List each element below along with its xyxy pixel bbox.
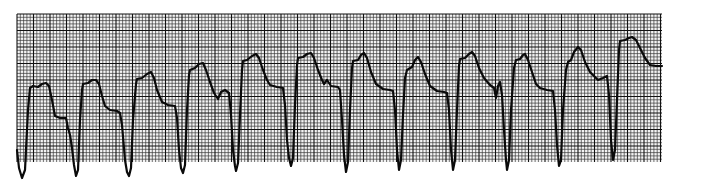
ecg-strip-chart [0, 0, 701, 186]
